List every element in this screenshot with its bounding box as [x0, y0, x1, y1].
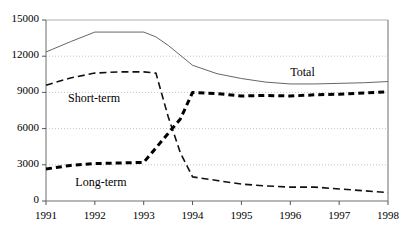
x-tick-label: 1998 — [363, 209, 409, 221]
annotation-label-total: Total — [290, 65, 315, 80]
x-tick-label: 1991 — [21, 209, 71, 221]
y-tick-label: 15000 — [12, 12, 40, 24]
x-tick-label: 1997 — [314, 209, 364, 221]
x-tick-label: 1994 — [168, 209, 218, 221]
y-tick-label: 9000 — [17, 84, 39, 96]
y-tick-label: 0 — [34, 193, 40, 205]
annotation-label-short-term: Short-term — [68, 91, 120, 106]
x-tick-label: 1993 — [119, 209, 169, 221]
y-tick-label: 6000 — [17, 121, 39, 133]
chart-plot-area — [0, 0, 409, 240]
x-tick-label: 1992 — [70, 209, 120, 221]
annotation-label-long-term: Long-term — [75, 175, 126, 190]
x-tick-label: 1996 — [265, 209, 315, 221]
chart-container: 03000600090001200015000 1991199219931994… — [0, 0, 409, 240]
series-line-total — [46, 32, 388, 84]
plot-frame — [46, 20, 388, 201]
y-tick-label: 12000 — [12, 48, 40, 60]
y-tick-label: 3000 — [17, 157, 39, 169]
x-tick-label: 1995 — [216, 209, 266, 221]
